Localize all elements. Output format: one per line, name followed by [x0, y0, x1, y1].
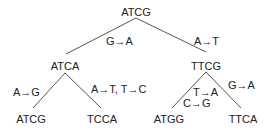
mutation-label-root-atca: G→A	[106, 35, 133, 47]
node-atgg-leaf: ATGG	[154, 113, 184, 125]
tree-edges	[0, 0, 269, 131]
mutation-label-ttcg-ttca: G→A	[228, 79, 255, 91]
mutation-label-atca-atcg: A→G	[13, 86, 40, 98]
mutation-label-atca-tcca: A→T, T→C	[91, 83, 146, 95]
node-tcca-leaf: TCCA	[87, 113, 117, 125]
mutation-label-root-ttcg: A→T	[194, 35, 219, 47]
mutation-label-ttcg-atgg-2: C→G	[183, 97, 211, 109]
node-root: ATCG	[121, 6, 151, 18]
node-atca: ATCA	[51, 60, 80, 72]
node-atcg-leaf: ATCG	[16, 113, 46, 125]
node-ttca-leaf: TTCA	[229, 113, 258, 125]
node-ttcg: TTCG	[191, 60, 221, 72]
